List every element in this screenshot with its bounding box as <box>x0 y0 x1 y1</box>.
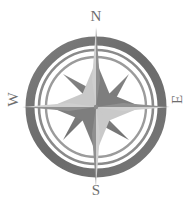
compass-center-hub <box>94 105 98 109</box>
cardinal-label-north: N <box>0 9 192 24</box>
cardinal-label-west: W <box>6 92 21 107</box>
cardinal-label-east: E <box>170 92 185 107</box>
cardinal-label-south: S <box>0 183 192 198</box>
compass-rose-figure: N S W E <box>0 0 192 214</box>
